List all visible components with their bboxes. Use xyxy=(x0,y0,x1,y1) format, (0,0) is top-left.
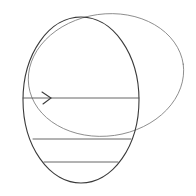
sketch-diagram xyxy=(0,0,196,196)
front-ellipse xyxy=(23,17,139,183)
